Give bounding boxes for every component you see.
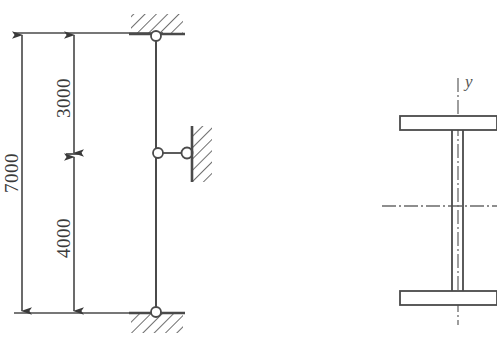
top-support-pin-circle	[151, 31, 161, 41]
mid-link-support	[153, 126, 212, 182]
figure-svg: 7000 3000 4000	[0, 0, 497, 342]
link-wall-hatch	[192, 126, 212, 182]
dimension-7000: 7000	[1, 35, 22, 311]
frame-diagram: 7000 3000 4000	[1, 14, 212, 333]
dimension-3000-label: 3000	[53, 78, 74, 118]
dimension-4000-label: 4000	[53, 218, 74, 258]
engineering-figure: 7000 3000 4000	[0, 0, 497, 342]
top-pin-support	[129, 14, 185, 41]
bottom-support-pin-circle	[151, 307, 161, 317]
dimension-3000: 3000	[53, 35, 74, 153]
axis-label-y: y	[463, 72, 473, 91]
dimension-7000-label: 7000	[1, 153, 22, 193]
bottom-flange	[400, 291, 497, 305]
dimension-4000: 4000	[53, 157, 74, 311]
bottom-pin-support	[129, 307, 185, 333]
extension-lines	[14, 33, 163, 313]
link-pin-left-circle	[153, 148, 163, 158]
top-flange	[400, 116, 497, 130]
cross-section-diagram: y	[382, 72, 497, 325]
